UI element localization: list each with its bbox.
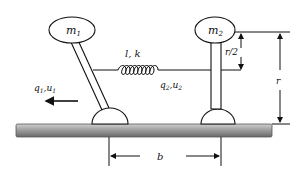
spring-label: l, k (125, 48, 141, 59)
dimension-b (109, 137, 221, 166)
r-half-label: r/2 (225, 47, 238, 57)
coord-1-label: q1,u1 (34, 83, 56, 94)
r-label: r (276, 76, 281, 86)
dimension-r (272, 34, 290, 124)
spring (93, 66, 211, 75)
coord-2-label: q2,u2 (160, 80, 182, 91)
diagram-canvas: m1 m2 l, k q1,u1 q2,u2 r/2 r b (0, 0, 304, 172)
ground-bar (16, 124, 272, 137)
b-label: b (157, 151, 163, 162)
